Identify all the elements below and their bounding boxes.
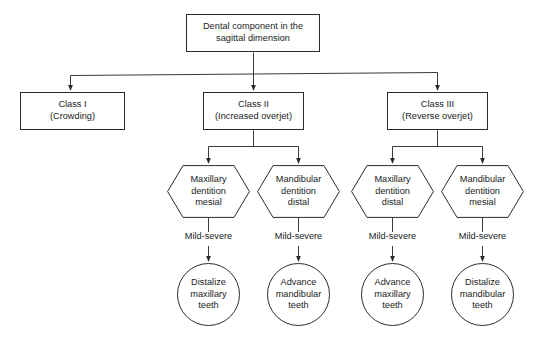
dentition-4-node[interactable]: Mandibular dentition mesial — [441, 165, 524, 218]
treatment-2-node[interactable]: Advance mandibular teeth — [267, 263, 330, 326]
flowchart-canvas: Dental component in the sagittal dimensi… — [0, 0, 535, 338]
severity-label-3: Mild-severe — [357, 231, 428, 242]
treatment-4-node[interactable]: Distalize mandibular teeth — [451, 263, 514, 326]
class-1-node[interactable]: Class I (Crowding) — [20, 92, 125, 130]
class-3-node[interactable]: Class III (Reverse overjet) — [387, 92, 488, 130]
dentition-2-node[interactable]: Mandibular dentition distal — [257, 165, 340, 218]
root-node[interactable]: Dental component in the sagittal dimensi… — [186, 14, 320, 52]
dentition-1-node[interactable]: Maxillary dentition mesial — [167, 165, 250, 218]
dentition-3-node[interactable]: Maxillary dentition distal — [351, 165, 434, 218]
class-2-node[interactable]: Class II (Increased overjet) — [203, 92, 304, 130]
severity-label-1: Mild-severe — [173, 231, 244, 242]
severity-label-2: Mild-severe — [263, 231, 334, 242]
dentition-3-label: Maxillary dentition distal — [374, 174, 410, 209]
connector-distribution-bar — [71, 73, 438, 76]
severity-label-4: Mild-severe — [447, 231, 518, 242]
treatment-3-node[interactable]: Advance maxillary teeth — [361, 263, 424, 326]
dentition-2-label: Mandibular dentition distal — [276, 174, 321, 209]
treatment-1-node[interactable]: Distalize maxillary teeth — [177, 263, 240, 326]
dentition-1-label: Maxillary dentition mesial — [190, 174, 226, 209]
dentition-4-label: Mandibular dentition mesial — [460, 174, 505, 209]
